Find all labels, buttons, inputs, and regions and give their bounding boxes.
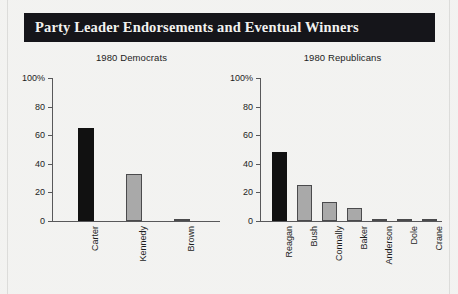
bar-crane[interactable] <box>422 219 437 221</box>
x-axis-label-bush: Bush <box>309 226 319 247</box>
y-tick-label-republicans-60: 60 <box>243 130 253 140</box>
bar-reagan[interactable] <box>272 152 287 221</box>
chart-panel-republicans: 1980 Republicans 020406080100% ReaganBus… <box>226 52 441 287</box>
bar-slot-brown[interactable]: Brown <box>174 78 190 221</box>
y-tick-label-democrats-20: 20 <box>35 187 45 197</box>
bar-slot-crane[interactable]: Crane <box>422 78 437 221</box>
plot-area-republicans: 020406080100% ReaganBushConnallyBakerAnd… <box>260 78 436 221</box>
chart-panel-democrats: 1980 Democrats 020406080100% CarterKenne… <box>18 52 223 287</box>
y-tick-label-republicans-80: 80 <box>243 102 253 112</box>
x-axis-label-anderson: Anderson <box>384 226 394 265</box>
bar-slot-reagan[interactable]: Reagan <box>272 78 287 221</box>
y-tick-label-republicans-20: 20 <box>243 187 253 197</box>
x-axis-republicans <box>260 221 442 222</box>
x-axis-label-kennedy: Kennedy <box>138 226 148 262</box>
x-axis-label-brown: Brown <box>186 226 196 252</box>
bar-slot-carter[interactable]: Carter <box>78 78 94 221</box>
x-axis-label-connally: Connally <box>334 226 344 261</box>
bar-carter[interactable] <box>78 128 94 221</box>
bar-slot-anderson[interactable]: Anderson <box>372 78 387 221</box>
y-tick-label-republicans-40: 40 <box>243 159 253 169</box>
bar-baker[interactable] <box>347 208 362 221</box>
y-tick-label-republicans-100: 100% <box>230 73 253 83</box>
y-tick-label-democrats-0: 0 <box>40 216 45 226</box>
bar-brown[interactable] <box>174 219 190 221</box>
y-tick-label-democrats-60: 60 <box>35 130 45 140</box>
x-axis-label-carter: Carter <box>90 226 100 251</box>
bar-dole[interactable] <box>397 219 412 221</box>
x-axis-label-reagan: Reagan <box>284 226 294 258</box>
chart-title-democrats: 1980 Democrats <box>18 52 223 63</box>
bar-slot-bush[interactable]: Bush <box>297 78 312 221</box>
bar-slot-dole[interactable]: Dole <box>397 78 412 221</box>
figure-canvas: Party Leader Endorsements and Eventual W… <box>0 0 458 294</box>
bar-kennedy[interactable] <box>126 174 142 221</box>
bar-bush[interactable] <box>297 185 312 221</box>
chart-title-republicans: 1980 Republicans <box>226 52 441 63</box>
plot-area-democrats: 020406080100% CarterKennedyBrown <box>52 78 212 221</box>
figure-frame-left-edge <box>7 0 8 294</box>
y-tick-republicans-0 <box>256 221 260 222</box>
bar-slot-connally[interactable]: Connally <box>322 78 337 221</box>
x-axis-label-crane: Crane <box>434 226 444 251</box>
x-axis-democrats <box>52 221 220 222</box>
y-tick-democrats-0 <box>48 221 52 222</box>
x-axis-label-baker: Baker <box>359 226 369 250</box>
bar-connally[interactable] <box>322 202 337 221</box>
figure-frame-right-edge <box>449 0 450 294</box>
y-tick-label-republicans-0: 0 <box>248 216 253 226</box>
page-title: Party Leader Endorsements and Eventual W… <box>24 19 359 36</box>
bar-slot-kennedy[interactable]: Kennedy <box>126 78 142 221</box>
x-axis-label-dole: Dole <box>409 226 419 245</box>
bar-slot-baker[interactable]: Baker <box>347 78 362 221</box>
y-tick-label-democrats-80: 80 <box>35 102 45 112</box>
y-tick-label-democrats-100: 100% <box>22 73 45 83</box>
bar-group-republicans: ReaganBushConnallyBakerAndersonDoleCrane <box>260 78 436 221</box>
bar-anderson[interactable] <box>372 219 387 221</box>
bar-group-democrats: CarterKennedyBrown <box>52 78 212 221</box>
title-banner: Party Leader Endorsements and Eventual W… <box>24 13 435 42</box>
y-tick-label-democrats-40: 40 <box>35 159 45 169</box>
